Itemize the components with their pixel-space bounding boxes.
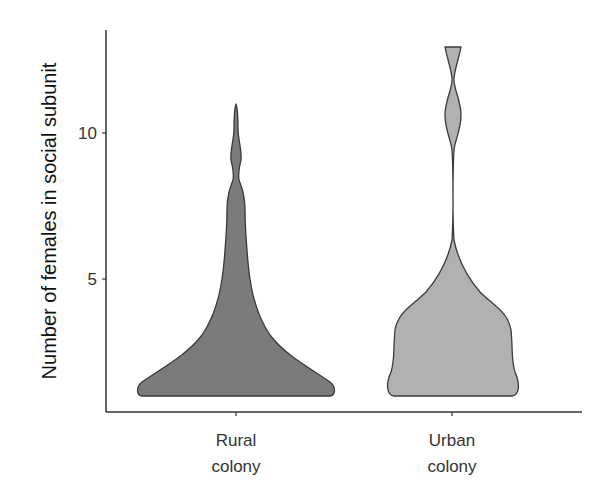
violin-urban-colony — [388, 47, 519, 396]
violin-rural-colony — [138, 104, 335, 396]
y-axis-title: Number of females in social subunit — [38, 62, 60, 379]
y-tick-label-10: 10 — [78, 124, 97, 143]
x-label-rural-line2: colony — [211, 457, 261, 476]
x-label-urban-line2: colony — [427, 457, 477, 476]
x-label-rural-line1: Rural — [216, 431, 257, 450]
violin-chart: 10 5 Rural colony Urban colony Number of… — [0, 0, 615, 501]
x-label-urban-line1: Urban — [429, 431, 475, 450]
y-tick-label-5: 5 — [88, 270, 97, 289]
